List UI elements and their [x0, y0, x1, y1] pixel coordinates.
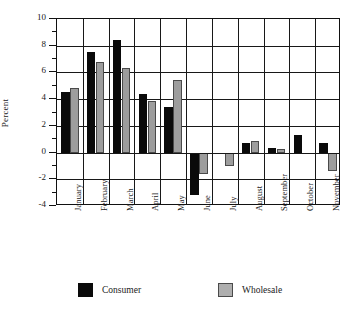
bar-wholesale-july [225, 153, 234, 166]
x-tick-label: October [305, 183, 315, 211]
bar-consumer-october [294, 135, 303, 152]
y-tick-major [49, 18, 56, 19]
y-tick-major [49, 71, 56, 72]
legend-label: Wholesale [242, 285, 282, 295]
x-tick-label: June [202, 195, 212, 211]
bar-consumer-june [190, 153, 199, 196]
bar-consumer-april [139, 94, 148, 153]
zero-baseline [57, 153, 339, 154]
y-tick-label: 4 [22, 93, 46, 102]
y-tick-label: 8 [22, 40, 46, 49]
x-tick-label: February [99, 180, 109, 211]
bar-consumer-may [164, 107, 173, 152]
bar-wholesale-november [328, 153, 337, 172]
bar-group [83, 19, 109, 204]
y-tick-major [49, 152, 56, 153]
legend-entry-wholesale: Wholesale [218, 283, 282, 297]
bar-wholesale-may [173, 80, 182, 152]
bar-group [186, 19, 212, 204]
x-tick-label: January [73, 184, 83, 211]
y-tick-major [49, 45, 56, 46]
bar-wholesale-june [199, 153, 208, 174]
legend-swatch-consumer [78, 283, 93, 297]
bar-consumer-march [113, 40, 122, 152]
legend-entry-consumer: Consumer [78, 283, 141, 297]
bar-group [212, 19, 238, 204]
y-tick-label: 6 [22, 66, 46, 75]
bar-group [57, 19, 83, 204]
y-tick-label: 10 [22, 13, 46, 22]
bar-consumer-january [61, 92, 70, 152]
legend-swatch-wholesale [218, 283, 233, 297]
bar-wholesale-january [70, 88, 79, 152]
y-tick-label: -4 [22, 200, 46, 209]
y-tick-label: -2 [22, 173, 46, 182]
bar-group [238, 19, 264, 204]
legend-label: Consumer [102, 285, 141, 295]
y-tick-major [49, 205, 56, 206]
bar-consumer-february [87, 52, 96, 152]
bar-group [289, 19, 315, 204]
bar-wholesale-february [96, 62, 105, 153]
x-tick-label: March [125, 188, 135, 211]
plot-area [56, 18, 340, 205]
bar-group [160, 19, 186, 204]
y-tick-major [49, 178, 56, 179]
bar-wholesale-april [148, 101, 157, 152]
x-tick-label: November [331, 174, 341, 211]
x-tick-label: April [150, 193, 160, 211]
y-tick-major [49, 125, 56, 126]
chart-page: Percent 1086420-2-4 JanuaryFebruaryMarch… [0, 0, 361, 312]
y-axis-title: Percent [0, 78, 10, 148]
bar-consumer-august [242, 143, 251, 152]
bar-group [134, 19, 160, 204]
y-tick-label: 2 [22, 120, 46, 129]
y-tick-major [49, 98, 56, 99]
bar-wholesale-march [122, 68, 131, 152]
bar-wholesale-august [251, 141, 260, 153]
x-tick-label: August [254, 186, 264, 211]
x-tick-label: September [279, 174, 289, 211]
bar-consumer-november [319, 143, 328, 152]
x-tick-label: May [176, 195, 186, 211]
chart-legend: ConsumerWholesale [0, 281, 361, 307]
y-tick-label: 0 [22, 147, 46, 156]
bar-group [109, 19, 135, 204]
x-tick-label: July [228, 196, 238, 211]
